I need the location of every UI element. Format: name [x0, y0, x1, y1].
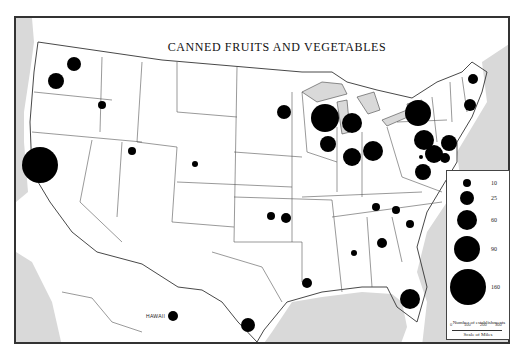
map-frame: CANNED FRUITS AND VEGETABLES HAWAII: [14, 16, 510, 344]
scale-tick: 200: [480, 322, 487, 327]
scale-bar: 0 100 200 300 Scale of Miles: [446, 322, 510, 342]
scale-tick: 0: [450, 322, 452, 327]
legend-circle-icon: [454, 236, 480, 262]
legend-value: 10: [491, 180, 497, 186]
hawaii-label: HAWAII: [146, 313, 165, 319]
legend-value: 25: [491, 195, 497, 201]
legend-value: 90: [491, 246, 497, 252]
legend-circle-icon: [460, 191, 474, 205]
map-title: CANNED FRUITS AND VEGETABLES: [16, 40, 508, 55]
legend-circle-icon: [457, 210, 477, 230]
scale-tick: 100: [464, 322, 471, 327]
legend: 10 25 60 90 160 Number of establishments: [446, 170, 510, 340]
scale-tick: 300: [495, 322, 502, 327]
legend-value: 160: [491, 284, 500, 290]
us-map: [16, 18, 510, 344]
scale-caption: Scale of Miles: [446, 332, 510, 337]
scale-line: [452, 328, 502, 331]
legend-value: 60: [491, 217, 497, 223]
legend-circle-icon: [463, 179, 471, 187]
legend-circle-icon: [450, 269, 486, 305]
